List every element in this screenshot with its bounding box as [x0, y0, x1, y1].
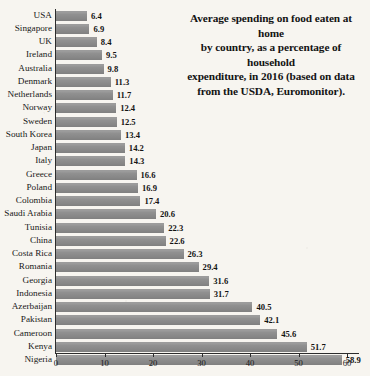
x-axis-line: [55, 353, 359, 354]
category-label: USA: [34, 11, 56, 20]
category-label: Indonesia: [16, 289, 56, 298]
bar-value-label: 11.7: [117, 91, 132, 100]
bar: [56, 209, 156, 219]
x-axis-tick: [202, 353, 203, 357]
bar-value-label: 8.4: [101, 38, 112, 47]
x-axis-tick: [56, 353, 57, 357]
x-axis-tick: [250, 353, 251, 357]
x-axis-tick-label: 20: [149, 359, 158, 368]
chart-title-line-3: expenditure, in 2016 (based on data: [176, 69, 366, 84]
bar: [56, 262, 199, 272]
bar-value-label: 6.4: [91, 11, 102, 20]
bar: [56, 315, 260, 325]
x-axis-tick-label: 10: [100, 359, 109, 368]
bar-value-label: 16.9: [142, 184, 157, 193]
x-axis-tick-label: 60: [343, 359, 352, 368]
category-label: Saudi Arabia: [4, 210, 56, 219]
x-axis-tick: [153, 353, 154, 357]
x-axis-tick: [105, 353, 106, 357]
category-label: Italy: [35, 157, 56, 166]
chart-title-line-2: by country, as a percentage of household: [176, 40, 366, 69]
bar: [56, 289, 210, 299]
category-label: Netherlands: [8, 91, 56, 100]
bar-value-label: 9.8: [108, 64, 119, 73]
bar: [56, 11, 87, 21]
bar-value-label: 12.4: [120, 104, 135, 113]
bar-value-label: 20.6: [160, 210, 175, 219]
bar: [56, 24, 89, 34]
bar: [56, 236, 166, 246]
chart-page: Average spending on food eaten at home b…: [0, 0, 370, 376]
chart-title: Average spending on food eaten at home b…: [176, 11, 366, 99]
bar: [56, 117, 117, 127]
bar: [56, 249, 184, 259]
category-label: China: [30, 236, 56, 245]
x-axis-tick: [299, 353, 300, 357]
bar-value-label: 16.6: [141, 170, 156, 179]
category-label: Denmark: [18, 77, 56, 86]
bar: [56, 183, 138, 193]
bar-value-label: 51.7: [311, 343, 326, 352]
x-axis-tick-label: 0: [54, 359, 58, 368]
bar-value-label: 22.3: [168, 223, 183, 232]
bar: [56, 143, 125, 153]
bar-value-label: 12.5: [121, 117, 136, 126]
category-label: Tunisia: [25, 223, 56, 232]
category-label: Azerbaijan: [12, 303, 56, 312]
category-label: Georgia: [23, 276, 56, 285]
bar: [56, 196, 140, 206]
category-label: Sweden: [23, 117, 56, 126]
bar-value-label: 22.6: [170, 237, 185, 246]
category-label: Cameroon: [14, 329, 56, 338]
category-label: Romania: [19, 263, 56, 272]
bar-value-label: 42.1: [264, 316, 279, 325]
category-label: Colombia: [16, 197, 56, 206]
x-axis-tick-label: 40: [246, 359, 255, 368]
category-label: Japan: [31, 144, 56, 153]
bar: [56, 302, 252, 312]
bar: [56, 37, 97, 47]
category-label: Nigeria: [24, 356, 56, 365]
bar: [56, 50, 102, 60]
x-axis-tick-label: 50: [294, 359, 303, 368]
y-axis-line: [55, 9, 56, 354]
category-label: Pakistan: [21, 316, 56, 325]
bar: [56, 103, 116, 113]
bar-value-label: 14.3: [129, 157, 144, 166]
bar: [56, 276, 209, 286]
bar-value-label: 40.5: [256, 303, 271, 312]
bar: [56, 342, 307, 352]
bar: [56, 170, 137, 180]
chart-title-line-4: from the USDA, Euromonitor).: [176, 84, 366, 99]
category-label: Australia: [18, 64, 56, 73]
category-label: Ireland: [26, 51, 56, 60]
bar-value-label: 31.7: [214, 290, 229, 299]
bar: [56, 130, 121, 140]
category-label: Poland: [26, 183, 56, 192]
bar-value-label: 13.4: [125, 131, 140, 140]
bar-value-label: 29.4: [203, 263, 218, 272]
bar-value-label: 26.3: [188, 250, 203, 259]
x-axis-tick: [347, 353, 348, 357]
category-label: Norway: [22, 104, 56, 113]
bar: [56, 329, 277, 339]
category-label: South Korea: [6, 130, 56, 139]
bar-value-label: 6.9: [93, 25, 104, 34]
category-label: Kenya: [28, 342, 56, 351]
bar-value-label: 9.5: [106, 51, 117, 60]
bar-value-label: 31.6: [213, 276, 228, 285]
category-label: UK: [39, 38, 56, 47]
chart-title-line-1: Average spending on food eaten at home: [176, 11, 366, 40]
bar-value-label: 45.6: [281, 329, 296, 338]
category-label: Costa Rica: [12, 250, 56, 259]
bar: [56, 77, 111, 87]
category-label: Singapore: [15, 24, 56, 33]
bar: [56, 64, 104, 74]
bar: [56, 90, 113, 100]
bar-value-label: 11.3: [115, 78, 130, 87]
bar: [56, 156, 125, 166]
bar-value-label: 14.2: [129, 144, 144, 153]
category-label: Greece: [26, 170, 56, 179]
bar: [56, 223, 164, 233]
bar-value-label: 17.4: [144, 197, 159, 206]
